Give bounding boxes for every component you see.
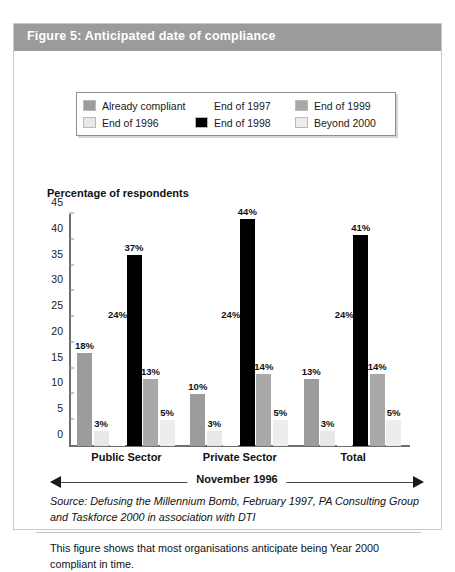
bar-value-label: 3% <box>207 418 221 429</box>
arrow-right-icon <box>413 476 424 488</box>
y-axis-tick-mark <box>69 213 74 214</box>
bar: 24% <box>337 322 352 446</box>
legend-swatch <box>83 100 96 111</box>
bar-value-label: 24% <box>108 309 127 320</box>
chart-legend: Already compliantEnd of 1997End of 1999E… <box>76 92 396 136</box>
y-axis-tick-label: 35 <box>51 248 63 260</box>
y-axis-tick-mark <box>69 264 74 265</box>
y-axis-tick-label: 0 <box>57 428 63 440</box>
bar-value-label: 10% <box>188 381 207 392</box>
bar-value-label: 13% <box>302 366 321 377</box>
bar: 5% <box>386 420 401 446</box>
arrow-left-icon <box>50 476 61 488</box>
legend-label: Already compliant <box>102 100 185 112</box>
plot-area: 05101520253035404518%3%24%37%13%5%10%3%2… <box>69 214 409 446</box>
bar: 3% <box>94 431 109 446</box>
y-axis-tick-mark <box>69 316 74 317</box>
y-axis-tick-label: 40 <box>51 222 63 234</box>
legend-swatch <box>195 100 208 111</box>
legend-label: Beyond 2000 <box>314 117 376 129</box>
legend-label: End of 1997 <box>214 100 271 112</box>
category-label: Private Sector <box>203 451 277 463</box>
bar: 5% <box>160 420 175 446</box>
bar-value-label: 5% <box>160 407 174 418</box>
legend-swatch <box>295 100 308 111</box>
figure-caption: This figure shows that most organisation… <box>50 541 428 572</box>
y-axis-title: Percentage of respondents <box>47 187 189 199</box>
category-label: Public Sector <box>91 451 161 463</box>
bar-group: 13%3%24%41%14%5% <box>304 214 408 446</box>
bar: 24% <box>223 322 238 446</box>
bar: 3% <box>320 431 335 446</box>
y-axis-tick-mark <box>69 393 74 394</box>
bar-value-label: 41% <box>351 222 370 233</box>
bar-value-label: 37% <box>124 242 143 253</box>
y-axis-tick-mark <box>69 367 74 368</box>
legend-item: Beyond 2000 <box>295 114 389 131</box>
bar: 44% <box>240 219 255 446</box>
bar-value-label: 18% <box>75 340 94 351</box>
y-axis-tick-mark <box>69 341 74 342</box>
legend-item: Already compliant <box>83 97 195 114</box>
divider <box>36 532 421 533</box>
y-axis-tick-label: 45 <box>51 196 63 208</box>
bar: 3% <box>207 431 222 446</box>
figure-header: Figure 5: Anticipated date of compliance <box>14 24 441 51</box>
legend-swatch <box>195 117 208 128</box>
bar: 41% <box>353 235 368 446</box>
figure-title: Figure 5: Anticipated date of compliance <box>27 29 276 43</box>
legend-swatch <box>83 117 96 128</box>
y-axis-tick-label: 30 <box>51 273 63 285</box>
legend-label: End of 1999 <box>314 100 371 112</box>
legend-item: End of 1999 <box>295 97 389 114</box>
bar: 24% <box>110 322 125 446</box>
figure-card: Figure 5: Anticipated date of compliance… <box>14 24 441 529</box>
bar: 18% <box>77 353 92 446</box>
y-axis-tick-mark <box>69 290 74 291</box>
bar-value-label: 24% <box>335 309 354 320</box>
bar-value-label: 3% <box>94 418 108 429</box>
legend-swatch <box>295 117 308 128</box>
bar: 13% <box>304 379 319 446</box>
y-axis-tick-label: 25 <box>51 299 63 311</box>
bar: 10% <box>190 394 205 446</box>
y-axis-tick-label: 10 <box>51 376 63 388</box>
period-label: November 1996 <box>187 473 286 485</box>
y-axis-tick-label: 5 <box>57 402 63 414</box>
legend-label: End of 1996 <box>102 117 159 129</box>
y-axis-tick-label: 20 <box>51 325 63 337</box>
bar-group: 10%3%24%44%14%5% <box>190 214 294 446</box>
bar-value-label: 5% <box>273 407 287 418</box>
bar: 14% <box>256 374 271 446</box>
legend-label: End of 1998 <box>214 117 271 129</box>
bar-group: 18%3%24%37%13%5% <box>77 214 181 446</box>
bar-value-label: 44% <box>238 206 257 217</box>
bar: 5% <box>273 420 288 446</box>
category-label: Total <box>340 451 365 463</box>
bar-value-label: 5% <box>387 407 401 418</box>
y-axis-tick-label: 15 <box>51 351 63 363</box>
bar: 13% <box>143 379 158 446</box>
bar-value-label: 13% <box>141 366 160 377</box>
bar: 37% <box>127 255 142 446</box>
legend-item: End of 1997 <box>195 97 295 114</box>
bar-value-label: 14% <box>254 361 273 372</box>
y-axis-tick-mark <box>69 238 74 239</box>
bar: 14% <box>370 374 385 446</box>
period-axis: November 1996 <box>50 475 424 489</box>
y-axis-tick-mark <box>69 419 74 420</box>
bar-value-label: 3% <box>321 418 335 429</box>
legend-item: End of 1998 <box>195 114 295 131</box>
figure-body: Already compliantEnd of 1997End of 1999E… <box>14 51 441 529</box>
bar-value-label: 24% <box>221 309 240 320</box>
legend-item: End of 1996 <box>83 114 195 131</box>
source-note: Source: Defusing the Millennium Bomb, Fe… <box>50 494 424 525</box>
bar-value-label: 14% <box>368 361 387 372</box>
